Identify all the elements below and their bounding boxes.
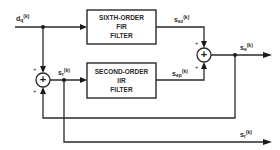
iir-filter-label: SECOND-ORDER IIR FILTER [87,67,156,94]
arrow-into-left-adder-top-icon [40,66,46,73]
right-adder-top-sign: + [195,40,199,46]
iir-label-line1: SECOND-ORDER [87,67,156,76]
fir-label-line3: FILTER [87,31,156,40]
arrow-into-right-adder-top-icon [201,41,207,48]
arrow-into-right-adder-bottom-icon [201,62,207,69]
arrow-into-left-adder-bottom-icon [40,87,46,94]
right-adder-plus-icon: + [197,49,211,60]
signal-label-dq: dq(k) [16,14,29,23]
left-adder-top-sign: + [33,66,37,72]
signal-label-sez: sez(k) [174,15,189,24]
right-adder-bottom-sign: + [195,64,199,70]
signal-label-sr-output: sr(k) [240,130,252,139]
iir-label-line2: IIR [87,76,156,85]
signal-label-se: se(k) [240,43,253,52]
iir-label-line3: FILTER [87,85,156,94]
fir-label-line2: FIR [87,22,156,31]
arrow-into-fir-icon [80,24,87,30]
signal-label-sep: sep(k) [172,69,188,78]
left-adder-bottom-sign: + [33,88,37,94]
signal-label-sr: sr(k) [58,68,70,77]
estimate-output-arrow-icon [263,52,272,58]
left-adder-plus-icon: + [36,74,50,85]
reconstructed-output-arrow-icon [263,139,272,145]
fir-label-line1: SIXTH-ORDER [87,13,156,22]
arrow-into-iir-icon [80,77,87,83]
fir-filter-label: SIXTH-ORDER FIR FILTER [87,13,156,40]
